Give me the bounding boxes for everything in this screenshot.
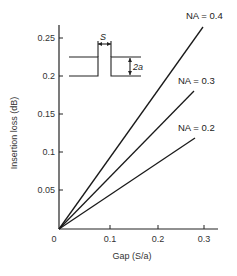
y-tick-label: 0.2	[42, 71, 55, 81]
y-tick-label: 0.25	[37, 33, 55, 43]
y-tick-label: 0.05	[37, 185, 55, 195]
x-tick-label: 0.3	[198, 234, 211, 244]
core-diameter-label: 2a	[132, 62, 143, 72]
x-tick-label: 0	[51, 234, 56, 244]
line-na-0.3	[59, 91, 194, 229]
x-axis-title: Gap (S/a)	[112, 251, 151, 261]
fiber-gap-schematic	[69, 41, 141, 76]
y-axis-title: Insertion loss (dB)	[9, 97, 19, 170]
gap-label: S	[100, 32, 106, 42]
insertion-loss-chart: 0.25 0.2 0.15 0.1 0.05 0 0.1 0.2 0.3 Gap…	[0, 0, 237, 276]
x-tick-label: 0.2	[152, 234, 165, 244]
y-tick-label: 0.1	[42, 147, 55, 157]
series-label-na-0.4: NA = 0.4	[186, 10, 223, 21]
line-na-0.2	[59, 138, 195, 229]
series-label-na-0.3: NA = 0.3	[178, 75, 215, 86]
x-tick-label: 0.1	[104, 234, 117, 244]
series-label-na-0.2: NA = 0.2	[178, 122, 215, 133]
y-tick-label: 0.15	[37, 109, 55, 119]
